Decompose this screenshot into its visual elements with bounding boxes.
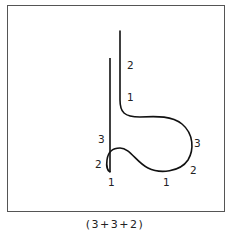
label-bottom-left-1: 1 — [108, 177, 115, 188]
main-curve-stroke — [107, 31, 192, 172]
label-upper-1: 1 — [127, 92, 134, 103]
label-left-2: 2 — [95, 159, 102, 170]
label-bottom-right-1: 1 — [163, 177, 170, 188]
label-right-3: 3 — [194, 138, 201, 149]
label-upper-2: 2 — [127, 60, 134, 71]
figure-caption: (3+3+2) — [0, 218, 230, 231]
stroke-diagram — [0, 0, 230, 238]
label-right-2: 2 — [190, 165, 197, 176]
label-left-3: 3 — [98, 134, 105, 145]
